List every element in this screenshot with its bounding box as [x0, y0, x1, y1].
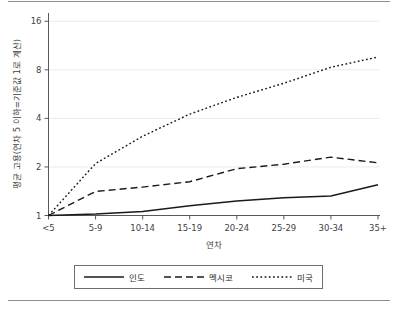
legend-swatch-solid	[84, 273, 124, 281]
y-tick-label: 4	[36, 113, 41, 123]
series-line-멕시코	[49, 157, 379, 215]
x-tick-label: 10-14	[130, 223, 155, 233]
chart-figure: 124816 <55-910-1415-1920-2425-2930-3435+…	[0, 0, 398, 312]
legend-label-mexico: 멕시코	[209, 271, 233, 283]
gridlines	[49, 21, 381, 215]
y-axis-title: 평균 고용(연차 5 이하=기준값 1로 계산)	[12, 39, 22, 189]
x-tick-label: 35+	[369, 223, 387, 233]
legend-item-usa: 미국	[252, 271, 313, 283]
legend-swatch-dashed	[164, 273, 204, 281]
legend-swatch-dotted	[252, 273, 292, 281]
legend-label-usa: 미국	[297, 271, 313, 283]
x-tick-label: 25-29	[272, 223, 297, 233]
x-tick-label: 15-19	[177, 223, 202, 233]
x-axis-title: 연차	[206, 240, 222, 250]
y-tick-group: 124816	[31, 16, 49, 220]
x-tick-label: 30-34	[319, 223, 344, 233]
x-tick-label: 5-9	[89, 223, 103, 233]
bottom-divider	[8, 300, 390, 301]
y-tick-label: 2	[36, 162, 41, 172]
legend-item-india: 인도	[84, 271, 145, 283]
y-tick-label: 1	[36, 211, 41, 221]
series-line-인도	[49, 185, 379, 216]
x-tick-label: 20-24	[224, 223, 249, 233]
chart-legend: 인도 멕시코 미국	[74, 265, 323, 289]
series-group	[49, 57, 379, 215]
y-tick-label: 16	[31, 16, 42, 26]
legend-label-india: 인도	[129, 271, 145, 283]
y-tick-label: 8	[36, 65, 41, 75]
x-tick-label: <5	[42, 223, 55, 233]
legend-item-mexico: 멕시코	[164, 271, 233, 283]
x-tick-group: <55-910-1415-1920-2425-2930-3435+	[42, 216, 387, 233]
